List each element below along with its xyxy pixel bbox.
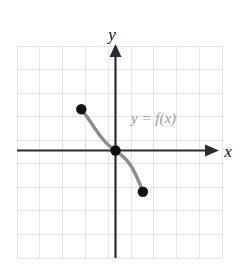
- graph-canvas: y x y = f(x): [0, 0, 243, 273]
- left-endpoint-dot: [76, 104, 86, 114]
- origin-point-dot: [110, 145, 120, 155]
- right-endpoint-dot: [138, 187, 148, 197]
- function-graph-figure: y x y = f(x): [0, 0, 243, 273]
- figure-background: [0, 0, 243, 273]
- x-axis-label: x: [223, 142, 232, 161]
- y-axis-label: y: [106, 25, 116, 44]
- curve-equation-label: y = f(x): [129, 110, 176, 127]
